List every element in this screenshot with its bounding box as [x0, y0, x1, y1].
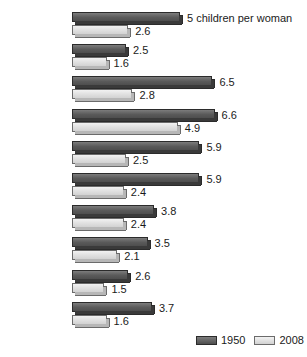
bar-3d-right-face [125, 47, 129, 56]
bar-value-label: 5.9 [206, 174, 221, 185]
bar-3d-right-face [153, 208, 157, 217]
bar-1950[interactable] [72, 44, 126, 57]
bar-value-label: 3.5 [155, 238, 170, 249]
legend-item-1950[interactable]: 1950 [196, 334, 245, 346]
chart-row: 6.64.9 [0, 99, 307, 131]
bar-body [72, 237, 148, 247]
bar-3d-right-face [198, 144, 202, 153]
bar-3d-right-face [214, 112, 218, 121]
chart-row: 5.92.5 [0, 131, 307, 163]
bar-1950[interactable] [72, 270, 128, 283]
bar-1950[interactable] [72, 302, 152, 315]
chart-row: 3.52.1 [0, 227, 307, 259]
bar-3d-right-face [106, 318, 110, 327]
chart-row: 3.82.4 [0, 195, 307, 227]
bar-1950[interactable] [72, 76, 212, 89]
bar-value-label: 2.6 [135, 271, 150, 282]
bar-3d-right-face [147, 240, 151, 249]
bar-3d-right-face [198, 176, 202, 185]
bar-value-label: 5 children per woman [187, 13, 292, 24]
bar-body [72, 205, 154, 215]
bar-body [72, 109, 215, 119]
legend-label-1950: 1950 [221, 334, 245, 346]
bar-body [72, 141, 199, 151]
bar-1950[interactable] [72, 173, 199, 186]
legend-label-2008: 2008 [279, 334, 303, 346]
chart-row: 2.51.6 [0, 34, 307, 66]
bar-body [72, 76, 212, 86]
bar-3d-right-face [151, 305, 155, 314]
bar-body [72, 173, 199, 183]
bar-1950[interactable] [72, 141, 199, 154]
bar-3d-right-face [127, 273, 131, 282]
bar-body [72, 12, 180, 22]
bar-body [72, 302, 152, 312]
bar-3d-right-face [179, 15, 183, 24]
chart-legend: 1950 2008 [196, 334, 304, 346]
bar-3d-right-face [211, 79, 215, 88]
bar-value-label: 6.5 [219, 77, 234, 88]
bar-1950[interactable] [72, 12, 180, 25]
bar-body [72, 44, 126, 54]
legend-item-2008[interactable]: 2008 [254, 334, 303, 346]
bar-1950[interactable] [72, 109, 215, 122]
dark-swatch-icon [196, 336, 217, 345]
light-swatch-icon [254, 336, 275, 345]
fertility-rate-bar-chart: 5 children per woman2.62.51.66.52.86.64.… [0, 0, 307, 357]
chart-row: 5 children per woman2.6 [0, 2, 307, 34]
bar-body [72, 315, 107, 325]
bar-2008[interactable] [72, 315, 107, 328]
bar-value-label: 6.6 [222, 110, 237, 121]
bar-1950[interactable] [72, 205, 154, 218]
bar-value-label: 2.5 [133, 45, 148, 56]
bar-value-label: 3.8 [161, 206, 176, 217]
chart-row: 6.52.8 [0, 66, 307, 98]
bar-value-label: 1.6 [114, 316, 129, 327]
bar-1950[interactable] [72, 237, 148, 250]
bar-3d-bottom-face [75, 324, 109, 328]
chart-row: 2.61.5 [0, 260, 307, 292]
chart-row: 3.71.6 [0, 292, 307, 324]
bar-body [72, 270, 128, 280]
bar-value-label: 5.9 [206, 142, 221, 153]
bar-value-label: 3.7 [159, 303, 174, 314]
chart-row: 5.92.4 [0, 163, 307, 195]
